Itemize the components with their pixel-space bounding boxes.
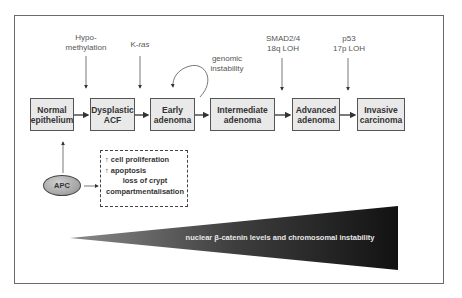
apc-effects-box: ↑ cell proliferation ↑ apoptosis loss of… xyxy=(100,150,188,207)
up-arrow-icon: ↑ xyxy=(105,155,109,164)
apc-node: APC xyxy=(43,175,81,196)
p53-label: p53 17p LOH xyxy=(326,34,372,54)
stage-dysplastic-acf: DysplasticACF xyxy=(90,98,135,131)
stage-early-adenoma: Earlyadenoma xyxy=(150,98,195,131)
hypomethylation-label: Hypo- methylation xyxy=(58,33,114,53)
stage-advanced-adenoma: Advancedadenoma xyxy=(292,98,340,131)
stage-normal-epithelium: Normalepithelium xyxy=(30,98,74,131)
kras-label: K-ras xyxy=(122,40,158,50)
stage-invasive-carcinoma: Invasivecarcinoma xyxy=(357,98,405,131)
genomic-instability-label: genomic instability xyxy=(202,54,252,74)
stage-intermediate-adenoma: Intermediateadenoma xyxy=(210,98,275,131)
up-arrow-icon: ↑ xyxy=(105,166,109,175)
smad-label: SMAD2/4 18q LOH xyxy=(260,34,306,54)
wedge-label: nuclear β-catenin levels and chromosomal… xyxy=(175,233,385,242)
